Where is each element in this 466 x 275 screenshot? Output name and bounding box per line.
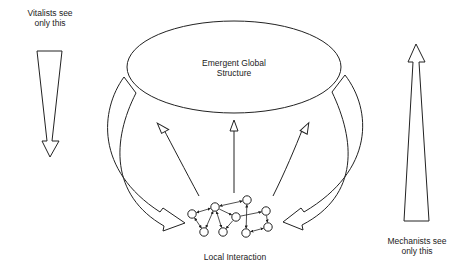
middle-thin-arrowhead-icon <box>230 120 238 131</box>
network-edge <box>226 221 233 229</box>
network-node <box>232 213 240 221</box>
mechanists-label-line2: only this <box>382 246 452 256</box>
network-node <box>219 228 227 236</box>
network-node <box>188 210 196 218</box>
network-edge <box>196 208 210 212</box>
right-thin-arrow-shaft <box>273 128 303 196</box>
right-thin-arrowhead-icon <box>300 121 312 134</box>
vitalists-label-line1: Vitalists see <box>20 8 80 18</box>
network-nodes <box>188 196 272 237</box>
network-edge <box>246 205 247 229</box>
network-edge <box>220 201 243 206</box>
network-edge <box>216 211 221 227</box>
local-interaction-label: Local Interaction <box>185 252 285 262</box>
vitalists-label: Vitalists see only this <box>20 8 80 28</box>
vitalists-down-arrow-icon <box>37 51 62 157</box>
left-thin-arrow-shaft <box>163 128 199 196</box>
diagram-svg <box>0 0 466 275</box>
network-edge <box>251 228 264 232</box>
network-edge <box>219 209 232 215</box>
network-edges <box>195 201 268 232</box>
global-structure-label: Emergent Global Structure <box>180 58 288 78</box>
network-node <box>264 223 272 231</box>
vitalists-label-line2: only this <box>20 18 80 28</box>
network-edge <box>195 218 202 228</box>
mechanists-up-arrow-icon <box>404 44 429 221</box>
diagram-canvas: Vitalists see only this Emergent Global … <box>0 0 466 275</box>
network-edge <box>267 216 268 223</box>
global-label-line1: Emergent Global <box>180 58 288 68</box>
global-label-line2: Structure <box>180 68 288 78</box>
network-node <box>200 228 208 236</box>
left-thin-arrowhead-icon <box>156 120 168 133</box>
mechanists-label-line1: Mechanists see <box>382 236 452 246</box>
network-edge <box>241 212 262 216</box>
network-node <box>243 196 251 204</box>
mechanists-label: Mechanists see only this <box>382 236 452 256</box>
network-edge <box>206 211 213 227</box>
network-node <box>242 229 250 237</box>
network-node <box>262 207 270 215</box>
network-node <box>211 203 219 211</box>
